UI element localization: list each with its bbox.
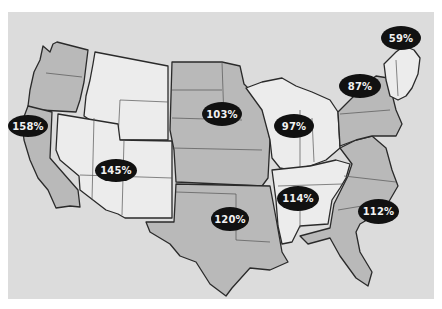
- label-southwest: 145%: [95, 159, 137, 182]
- label-plains: 103%: [202, 102, 242, 126]
- label-great-lakes: 97%: [274, 114, 314, 138]
- us-map: [0, 0, 442, 309]
- label-california: 158%: [8, 115, 48, 137]
- label-south-atlantic: 112%: [358, 199, 399, 224]
- label-new-england: 59%: [381, 26, 421, 50]
- label-east-south-central: 114%: [277, 186, 319, 211]
- label-south-central: 120%: [211, 207, 249, 231]
- label-middle-atlantic: 87%: [339, 74, 381, 98]
- region-new-england: [384, 46, 420, 100]
